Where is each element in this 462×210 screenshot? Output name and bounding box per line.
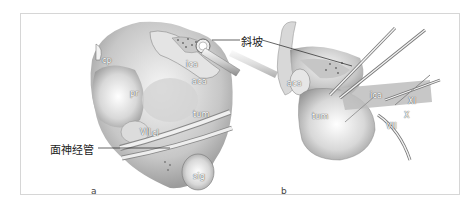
label-tum-a: tum — [193, 110, 210, 119]
panel-a-art — [91, 22, 240, 190]
panel-label-b: b — [281, 186, 287, 196]
label-vii-b: VII — [386, 122, 397, 131]
label-tum-b: tum — [312, 112, 329, 121]
label-aca-b: aca — [287, 79, 302, 88]
label-ica-b: ica — [370, 91, 382, 100]
label-cp: cp — [102, 56, 112, 65]
callout-facial-canal: 面神经管 — [50, 141, 94, 157]
label-sig: sig — [193, 172, 205, 181]
surgical-illustration — [0, 0, 462, 210]
label-x: X — [404, 111, 410, 120]
label-xi: XI — [408, 97, 416, 106]
label-cl: cl — [152, 129, 159, 138]
label-pr: pr — [130, 89, 139, 98]
callout-clivus: 斜坡 — [241, 33, 263, 49]
label-vii-a: VII — [140, 128, 151, 137]
label-aca-a: aca — [192, 77, 207, 86]
label-ica-a: ica — [186, 60, 198, 69]
panel-label-a: a — [91, 186, 97, 196]
